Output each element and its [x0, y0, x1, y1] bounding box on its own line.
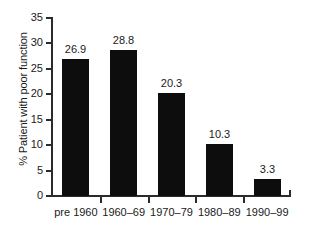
y-tick-label-0: 0: [13, 190, 43, 201]
bar-value-label-pre-1960: 26.9: [48, 44, 103, 55]
bar-value-label-1960-69: 28.8: [96, 35, 151, 46]
x-tick-4: [243, 197, 245, 203]
x-axis-label-1990-99: 1990–99: [235, 206, 299, 218]
y-tick-label-25: 25: [13, 63, 43, 74]
y-tick-label-20: 20: [13, 88, 43, 99]
bar-1980-89: [206, 144, 233, 196]
bar-value-label-1980-89: 10.3: [192, 129, 247, 140]
bar-1960-69: [110, 50, 137, 196]
bar-chart: % Patient with poor function 05101520253…: [0, 0, 309, 232]
y-tick-label-35: 35: [13, 12, 43, 23]
bar-1990-99: [254, 179, 281, 196]
y-tick-label-15: 15: [13, 114, 43, 125]
bar-1970-79: [158, 93, 185, 196]
bar-value-label-1990-99: 3.3: [240, 164, 295, 175]
bar-value-label-1970-79: 20.3: [144, 78, 199, 89]
bar-pre-1960: [62, 59, 89, 196]
x-tick-2: [148, 197, 150, 203]
y-tick-label-30: 30: [13, 37, 43, 48]
y-tick-label-5: 5: [13, 165, 43, 176]
x-tick-1: [100, 197, 102, 203]
y-tick-label-10: 10: [13, 139, 43, 150]
x-tick-3: [195, 197, 197, 203]
